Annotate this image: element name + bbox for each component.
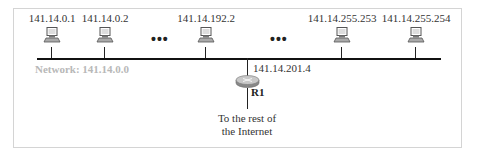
uplink-label-line1: To the rest of (207, 112, 287, 125)
computer-icon (42, 27, 62, 43)
host-3: 141.14.192.2 (166, 12, 246, 43)
host-5: 141.14.255.254 (376, 12, 456, 43)
computer-icon (406, 27, 426, 43)
uplink-line (247, 88, 248, 109)
host-ip: 141.14.255.254 (376, 12, 456, 24)
uplink-label: To the rest of the Internet (207, 112, 287, 138)
host-link (415, 47, 416, 58)
host-ip: 141.14.0.2 (65, 12, 145, 24)
ellipsis: ••• (270, 31, 288, 47)
host-link (51, 47, 52, 58)
host-4: 141.14.255.253 (302, 12, 382, 43)
ellipsis: ••• (151, 31, 169, 47)
host-ip: 141.14.192.2 (166, 12, 246, 24)
uplink-label-line2: the Internet (207, 125, 287, 138)
host-link (205, 47, 206, 58)
computer-icon (95, 27, 115, 43)
host-2: 141.14.0.2 (65, 12, 145, 43)
network-bus (37, 58, 441, 60)
router-ip: 141.14.201.4 (253, 62, 311, 74)
host-link (104, 47, 105, 58)
router-link (247, 58, 248, 76)
host-link (341, 47, 342, 58)
host-ip: 141.14.255.253 (302, 12, 382, 24)
computer-icon (196, 27, 216, 43)
computer-icon (332, 27, 352, 43)
network-label: Network: 141.14.0.0 (35, 63, 129, 75)
router-name: R1 (251, 86, 264, 98)
